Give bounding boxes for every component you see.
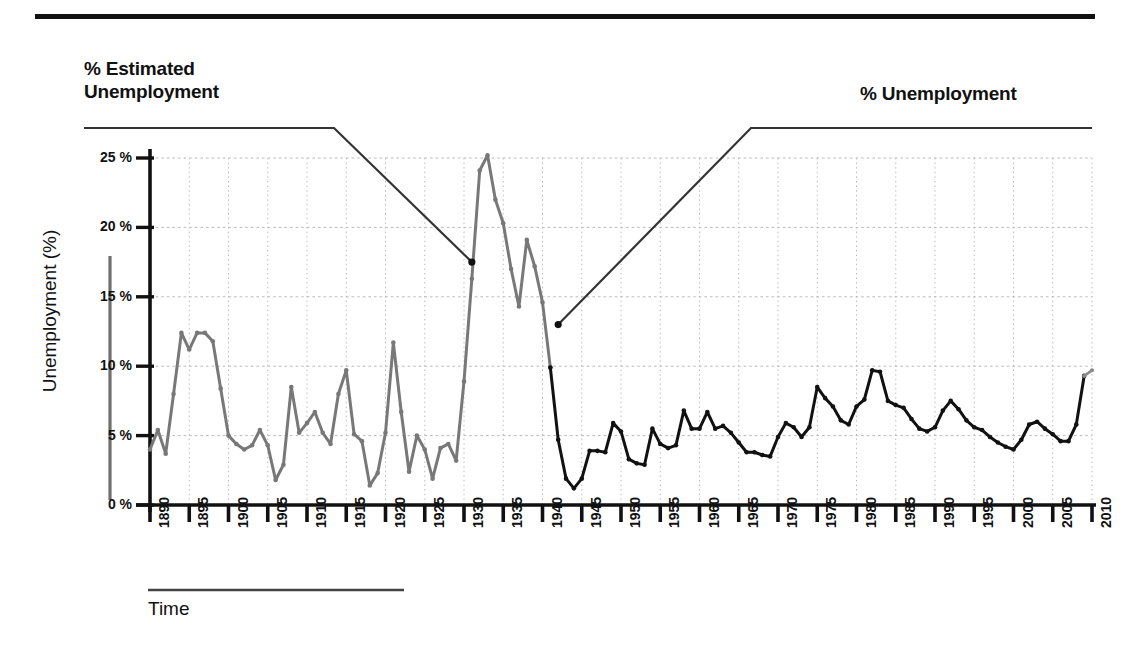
unemployment-line-chart — [0, 0, 1132, 670]
series-data-point — [729, 431, 734, 436]
x-tick-label: 1890 — [156, 497, 172, 528]
series-data-point — [595, 449, 600, 454]
series-data-point — [163, 451, 168, 456]
x-tick-label: 1945 — [588, 497, 604, 528]
x-tick-label: 1925 — [431, 497, 447, 528]
series-data-point — [226, 433, 231, 438]
series-data-point — [682, 408, 687, 413]
series-line — [150, 155, 550, 485]
leader-endpoint-unemployment — [555, 321, 562, 328]
series-data-point — [752, 450, 757, 455]
series-data-point — [407, 469, 412, 474]
series-data-point — [1058, 439, 1063, 444]
series-data-point — [988, 435, 993, 440]
x-tick-label: 1995 — [980, 497, 996, 528]
x-tick-label: 1990 — [941, 497, 957, 528]
series-data-point — [399, 410, 404, 415]
series-data-point — [634, 461, 639, 466]
series-data-point — [1043, 426, 1048, 431]
series-data-point — [972, 425, 977, 430]
series-data-point — [1011, 447, 1016, 452]
series-data-point — [179, 331, 184, 336]
series-data-point — [878, 369, 883, 374]
series-data-point — [328, 442, 333, 447]
y-tick-label: 20 % — [80, 218, 132, 234]
series-data-point — [713, 426, 718, 431]
series-data-point — [234, 442, 239, 447]
series-data-point — [611, 421, 616, 426]
series-data-point — [1019, 437, 1024, 442]
series-data-point — [674, 443, 679, 448]
x-tick-label: 2010 — [1098, 497, 1114, 528]
series-data-point — [697, 426, 702, 431]
series-data-point — [383, 431, 388, 436]
x-tick-label: 1910 — [313, 497, 329, 528]
series-data-point — [831, 404, 836, 409]
series-data-point — [477, 168, 482, 173]
series-data-point — [195, 331, 200, 336]
series-data-point — [917, 426, 922, 431]
series-data-point — [525, 238, 530, 243]
series-data-point — [736, 440, 741, 445]
x-tick-label: 1955 — [666, 497, 682, 528]
series-data-point — [470, 276, 475, 281]
series-data-point — [666, 446, 671, 451]
x-tick-label: 1940 — [549, 497, 565, 528]
series-data-point — [587, 449, 592, 454]
x-tick-label: 1915 — [352, 497, 368, 528]
series-data-point — [1090, 368, 1094, 372]
series-data-point — [360, 439, 365, 444]
series-data-point — [619, 429, 624, 434]
series-data-point — [336, 392, 341, 397]
series-data-point — [313, 410, 318, 415]
series-data-point — [980, 428, 985, 433]
leader-line-estimated-unemployment — [84, 128, 472, 262]
series-data-point — [1003, 444, 1008, 449]
series-data-point — [705, 410, 710, 415]
series-data-point — [799, 435, 804, 440]
series-data-point — [218, 386, 223, 391]
series-data-point — [925, 429, 930, 434]
series-data-point — [650, 426, 655, 431]
series-data-point — [564, 476, 569, 481]
series-data-point — [854, 404, 859, 409]
series-data-point — [501, 221, 506, 226]
series-data-point — [862, 397, 867, 402]
series-data-point — [603, 450, 608, 455]
series-data-point — [1066, 439, 1071, 444]
series-data-point — [305, 421, 310, 426]
series-data-point — [964, 418, 969, 423]
series-data-point — [893, 403, 898, 408]
series-data-point — [1050, 432, 1055, 437]
leader-endpoint-estimated-unemployment — [468, 259, 475, 266]
series-data-point — [532, 264, 537, 269]
series-data-point — [689, 426, 694, 431]
x-tick-label: 1900 — [235, 497, 251, 528]
series-data-point — [941, 408, 946, 413]
leader-line-unemployment — [558, 128, 1092, 325]
x-tick-label: 1975 — [823, 497, 839, 528]
series-data-point — [540, 300, 545, 305]
series-data-point — [1082, 374, 1086, 378]
x-tick-label: 1965 — [745, 497, 761, 528]
series-data-point — [776, 435, 781, 440]
series-data-point — [391, 340, 396, 345]
series-data-point — [1074, 422, 1079, 427]
series-data-point — [203, 331, 208, 336]
y-tick-label: 0 % — [80, 496, 132, 512]
series-data-point — [242, 447, 247, 452]
x-tick-label: 1950 — [627, 497, 643, 528]
series-data-point — [996, 440, 1001, 445]
series-data-point — [901, 406, 906, 411]
series-data-point — [823, 396, 828, 401]
series-data-point — [415, 433, 420, 438]
series-data-point — [289, 385, 294, 390]
series-data-point — [281, 462, 286, 467]
series-data-point — [485, 153, 490, 158]
series-data-point — [744, 450, 749, 455]
series-data-point — [250, 443, 255, 448]
series-data-point — [1035, 419, 1040, 424]
series-data-point — [446, 442, 451, 447]
x-tick-label: 2005 — [1059, 497, 1075, 528]
series-data-point — [886, 399, 891, 404]
